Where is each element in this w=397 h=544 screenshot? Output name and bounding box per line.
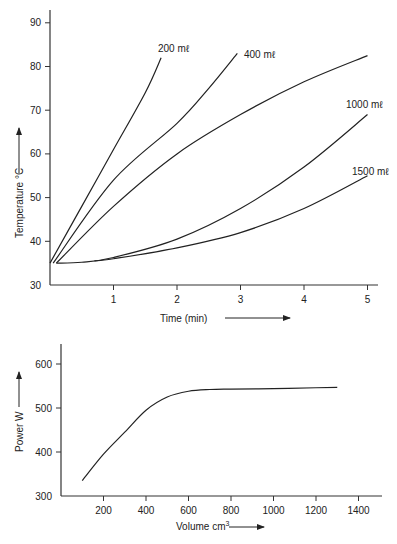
series-curve xyxy=(53,53,237,263)
x-tick-label: 1000 xyxy=(262,505,285,516)
x-tick-label: 4 xyxy=(301,294,307,305)
x-axis-title: Volume cm3 xyxy=(176,520,229,532)
y-axis-title: Temperature °C xyxy=(14,168,25,238)
y-axis-title: Power W xyxy=(14,411,25,452)
series-curve xyxy=(82,387,337,480)
series-curve xyxy=(50,58,161,263)
y-tick-label: 40 xyxy=(30,236,42,247)
x-tick-label: 400 xyxy=(138,505,155,516)
series-label-400: 400 mℓ xyxy=(244,49,276,60)
x-tick-label: 600 xyxy=(180,505,197,516)
y-tick-label: 80 xyxy=(30,61,42,72)
x-tick-label: 1400 xyxy=(347,505,370,516)
curves xyxy=(50,53,368,263)
y-tick-label: 60 xyxy=(30,148,42,159)
y-tick-label: 30 xyxy=(30,280,42,291)
series-curve xyxy=(94,176,367,261)
y-tick-label: 90 xyxy=(30,17,42,28)
x-axis-title: Time (min) xyxy=(160,313,207,324)
y-tick-label: 600 xyxy=(35,359,52,370)
axes: 3040506070809012345 xyxy=(30,10,378,305)
power-volume-chart: 300400500600200400600800100012001400 Pow… xyxy=(14,344,382,532)
x-tick-label: 3 xyxy=(238,294,244,305)
temperature-time-chart: 3040506070809012345 200 mℓ 400 mℓ 1000 m… xyxy=(14,10,389,324)
x-tick-label: 2 xyxy=(174,294,180,305)
series-curve xyxy=(56,115,367,264)
x-tick-label: 200 xyxy=(95,505,112,516)
y-tick-label: 70 xyxy=(30,105,42,116)
x-tick-label: 800 xyxy=(223,505,240,516)
x-tick-label: 5 xyxy=(365,294,371,305)
axes: 300400500600200400600800100012001400 xyxy=(35,344,382,516)
x-tick-label: 1 xyxy=(111,294,117,305)
y-tick-label: 300 xyxy=(35,491,52,502)
series-label-200: 200 mℓ xyxy=(158,43,190,54)
series-curve xyxy=(56,56,367,264)
x-tick-label: 1200 xyxy=(305,505,328,516)
series-label-1500: 1500 mℓ xyxy=(352,166,389,177)
series-label-1000: 1000 mℓ xyxy=(346,99,383,110)
figure: 3040506070809012345 200 mℓ 400 mℓ 1000 m… xyxy=(0,0,397,544)
y-tick-label: 500 xyxy=(35,403,52,414)
y-tick-label: 50 xyxy=(30,192,42,203)
y-tick-label: 400 xyxy=(35,447,52,458)
curves xyxy=(82,387,337,480)
